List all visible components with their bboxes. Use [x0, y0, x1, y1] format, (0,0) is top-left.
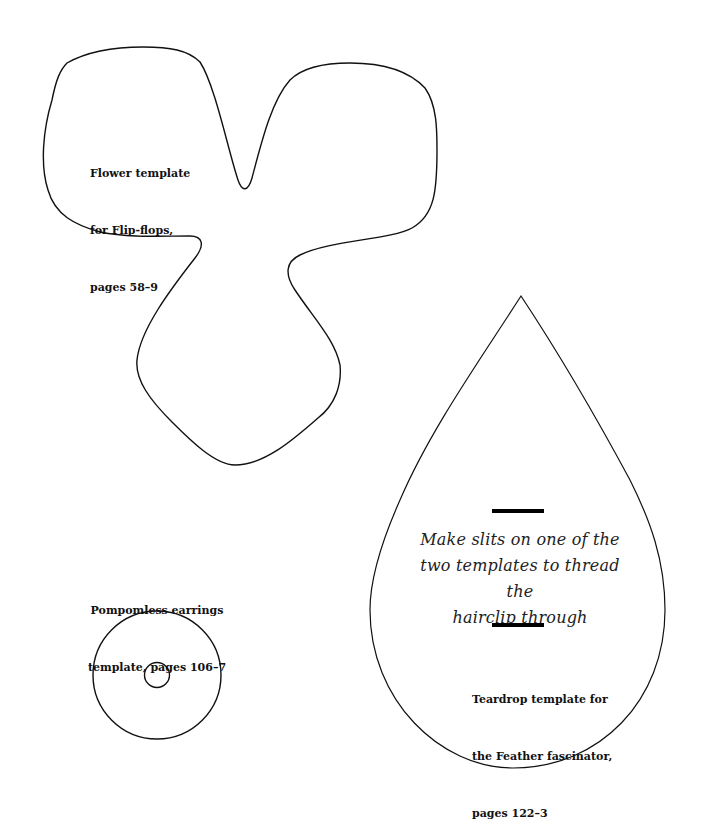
earrings-template-label: Pompomless earrings template, pages 106–…	[82, 563, 232, 696]
instruction-line-3: hairclip through	[415, 605, 625, 631]
earrings-label-line-1: Pompomless earrings	[82, 601, 232, 620]
instruction-line-1: Make slits on one of the	[415, 527, 625, 553]
flower-label-line-1: Flower template	[90, 164, 190, 183]
instruction-top-rule	[492, 509, 544, 513]
teardrop-label-line-3: pages 122–3	[472, 804, 612, 823]
instruction-bottom-rule	[492, 623, 544, 627]
teardrop-label-line-1: Teardrop template for	[472, 690, 612, 709]
flower-label-line-3: pages 58–9	[90, 278, 190, 297]
earrings-label-line-2: template, pages 106–7	[82, 658, 232, 677]
teardrop-label-line-2: the Feather fascinator,	[472, 747, 612, 766]
teardrop-template-label: Teardrop template for the Feather fascin…	[472, 652, 612, 825]
flower-template-label: Flower template for Flip-flops, pages 58…	[90, 126, 190, 316]
slit-instruction-text: Make slits on one of the two templates t…	[415, 527, 625, 631]
instruction-line-2: two templates to thread the	[415, 553, 625, 605]
flower-label-line-2: for Flip-flops,	[90, 221, 190, 240]
